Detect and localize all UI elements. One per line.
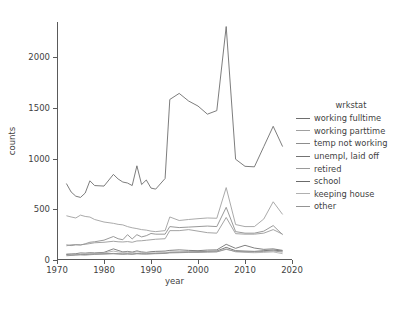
legend-item[interactable]: school bbox=[296, 175, 392, 188]
legend-color-swatch bbox=[296, 118, 310, 119]
x-tick bbox=[292, 260, 293, 264]
x-tick-label: 2010 bbox=[234, 265, 256, 275]
legend-color-swatch bbox=[296, 193, 310, 194]
legend-title: wrkstat bbox=[296, 100, 392, 110]
series-line bbox=[66, 188, 282, 232]
legend-item-label: working fulltime bbox=[314, 113, 381, 123]
legend-color-swatch bbox=[296, 130, 310, 131]
y-tick-label: 1500 bbox=[28, 103, 50, 113]
legend-color-swatch bbox=[296, 143, 310, 144]
legend-item[interactable]: temp not working bbox=[296, 137, 392, 150]
series-line bbox=[66, 27, 282, 198]
chart-figure: 0500100015002000 19701980199020002010202… bbox=[0, 0, 393, 312]
legend-item[interactable]: unempl, laid off bbox=[296, 150, 392, 163]
plot-area: 0500100015002000 19701980199020002010202… bbox=[57, 22, 292, 260]
legend: wrkstat working fulltimeworking parttime… bbox=[296, 100, 392, 213]
x-tick bbox=[104, 260, 105, 264]
legend-item[interactable]: working fulltime bbox=[296, 112, 392, 125]
legend-item-label: school bbox=[314, 176, 341, 186]
x-tick bbox=[151, 260, 152, 264]
legend-color-swatch bbox=[296, 181, 310, 182]
x-tick bbox=[198, 260, 199, 264]
legend-color-swatch bbox=[296, 168, 310, 169]
legend-item-label: retired bbox=[314, 164, 342, 174]
y-tick-label: 0 bbox=[45, 255, 50, 265]
legend-item[interactable]: keeping house bbox=[296, 188, 392, 201]
x-axis-label: year bbox=[57, 276, 292, 286]
y-tick-label: 500 bbox=[34, 204, 50, 214]
x-tick-label: 2020 bbox=[281, 265, 303, 275]
legend-item-label: unempl, laid off bbox=[314, 151, 379, 161]
y-tick-label: 2000 bbox=[28, 52, 50, 62]
x-tick-label: 1970 bbox=[46, 265, 68, 275]
x-tick bbox=[57, 260, 58, 264]
legend-color-swatch bbox=[296, 206, 310, 207]
series-line bbox=[66, 217, 282, 245]
legend-item-label: other bbox=[314, 201, 336, 211]
x-tick-label: 2000 bbox=[187, 265, 209, 275]
legend-item-label: keeping house bbox=[314, 189, 374, 199]
y-tick-label: 1000 bbox=[28, 154, 50, 164]
x-tick-label: 1980 bbox=[93, 265, 115, 275]
legend-item-label: temp not working bbox=[314, 138, 387, 148]
y-axis-label: counts bbox=[7, 127, 17, 155]
legend-item[interactable]: other bbox=[296, 200, 392, 213]
legend-item[interactable]: working parttime bbox=[296, 125, 392, 138]
x-tick-label: 1990 bbox=[140, 265, 162, 275]
legend-item-label: working parttime bbox=[314, 126, 385, 136]
series-lines bbox=[57, 22, 292, 260]
legend-color-swatch bbox=[296, 156, 310, 157]
x-tick bbox=[245, 260, 246, 264]
legend-entries: working fulltimeworking parttimetemp not… bbox=[296, 112, 392, 213]
legend-item[interactable]: retired bbox=[296, 162, 392, 175]
